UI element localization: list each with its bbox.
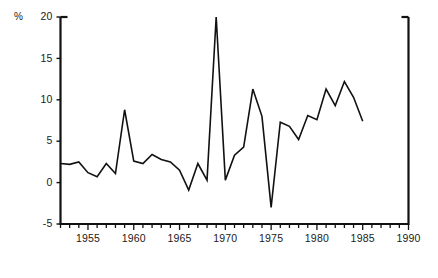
y-tick-label-3: 10: [40, 93, 52, 105]
x-tick-label-7: 1990: [396, 232, 420, 244]
line-chart: -505101520 19551960196519701975198019851…: [0, 0, 438, 278]
x-axis-tick-labels: 19551960196519701975198019851990: [76, 232, 421, 244]
y-axis-tick-labels: -505101520: [40, 10, 52, 229]
x-tick-label-0: 1955: [76, 232, 100, 244]
x-tick-label-6: 1985: [351, 232, 375, 244]
data-series: [61, 17, 363, 207]
y-tick-label-2: 5: [46, 134, 52, 146]
y-tick-label-4: 15: [40, 52, 52, 64]
x-tick-label-5: 1980: [305, 232, 329, 244]
y-tick-label-0: -5: [43, 217, 53, 229]
axes: [61, 17, 409, 224]
y-tick-label-1: 0: [46, 176, 52, 188]
x-tick-label-3: 1970: [213, 232, 237, 244]
x-tick-label-1: 1960: [122, 232, 146, 244]
x-tick-label-2: 1965: [167, 232, 191, 244]
y-tick-label-5: 20: [40, 10, 52, 22]
percent-unit-label: %: [14, 11, 23, 22]
axis-spines: [61, 17, 409, 224]
x-tick-label-4: 1975: [259, 232, 283, 244]
y-axis-unit-label: %: [14, 11, 23, 22]
series-line: [61, 17, 363, 207]
chart-figure: -505101520 19551960196519701975198019851…: [0, 0, 438, 278]
tick-marks: [57, 17, 409, 230]
